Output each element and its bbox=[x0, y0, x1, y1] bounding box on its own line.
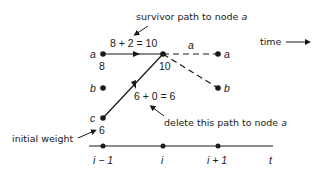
node-c-prev bbox=[100, 115, 106, 121]
initial-weight-arrow bbox=[78, 131, 94, 138]
path-direction-arrow bbox=[133, 51, 140, 57]
node-b-prev-label: b bbox=[90, 82, 96, 94]
branch-a-label: a bbox=[188, 39, 194, 51]
survivor-arrow bbox=[136, 26, 148, 34]
node-b-next bbox=[215, 85, 221, 91]
node-i-weight: 10 bbox=[159, 60, 171, 72]
survivor-annotation: survivor path to node a bbox=[136, 11, 247, 22]
axis-tick-i-plus-1 bbox=[216, 144, 221, 149]
node-b-prev bbox=[100, 85, 106, 91]
branch-to-b bbox=[163, 54, 218, 88]
node-a-prev bbox=[100, 51, 106, 57]
node-a-prev-label: a bbox=[90, 48, 96, 60]
axis-label-i-plus-1: i + 1 bbox=[207, 154, 227, 166]
node-a-next bbox=[215, 51, 221, 57]
axis-tick-i bbox=[161, 144, 166, 149]
deleted-equation: 6 + 0 = 6 bbox=[134, 90, 176, 102]
initial-weight-annotation: initial weight bbox=[12, 133, 73, 144]
node-a-next-label: a bbox=[224, 48, 230, 60]
axis-label-i: i bbox=[161, 154, 164, 166]
node-b-next-label: b bbox=[224, 82, 230, 94]
node-c-prev-label: c bbox=[90, 112, 96, 124]
trellis-diagram: survivor path to node a 8 + 2 = 10 time … bbox=[0, 0, 318, 173]
node-a-prev-weight: 8 bbox=[99, 60, 105, 72]
survivor-equation: 8 + 2 = 10 bbox=[110, 37, 157, 49]
node-c-prev-weight: 6 bbox=[99, 124, 105, 136]
axis-tick-i-minus-1 bbox=[101, 144, 106, 149]
delete-annotation: delete this path to node a bbox=[164, 117, 287, 128]
axis-end-label: t bbox=[269, 154, 273, 166]
node-i bbox=[160, 51, 166, 57]
delete-arrow bbox=[152, 107, 164, 116]
time-label: time bbox=[260, 36, 282, 47]
axis-label-i-minus-1: i − 1 bbox=[93, 154, 113, 166]
